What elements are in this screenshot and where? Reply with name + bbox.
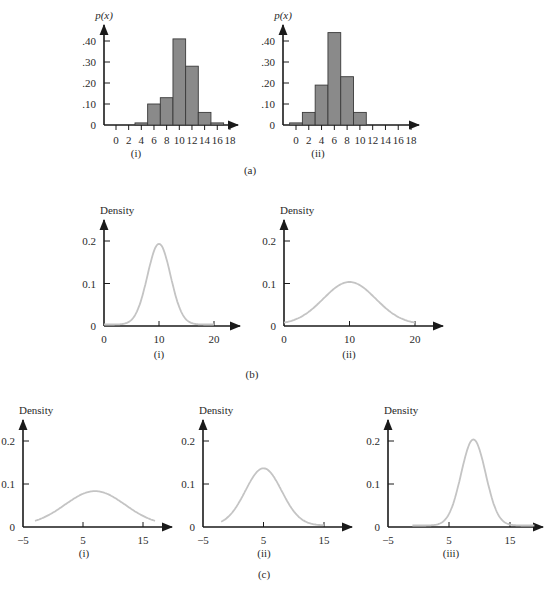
x-tick-label: 6: [332, 134, 338, 146]
x-tick-label: 15: [319, 534, 331, 546]
y-axis-label: p(x): [94, 9, 113, 22]
x-tick-label: 8: [344, 134, 350, 146]
y-tick-label: 0.2: [181, 435, 195, 447]
x-tick-label: −5: [197, 534, 209, 546]
histogram-bar: [186, 66, 199, 125]
y-tick-label: 0: [375, 521, 381, 533]
figure-canvas: p(x).40.30.20.100024681012141618(i)p(x).…: [0, 0, 553, 596]
histogram-bar: [302, 112, 315, 125]
x-tick-label: 10: [154, 333, 166, 345]
x-tick-label: 12: [186, 134, 197, 146]
x-tick-label: 18: [224, 134, 236, 146]
y-tick-label: 0.2: [366, 435, 380, 447]
y-tick-label: .40: [82, 35, 96, 47]
x-tick-label: 15: [138, 534, 150, 546]
y-tick-label: .30: [82, 56, 96, 68]
chart-sublabel: (ii): [257, 547, 271, 560]
y-tick-label: .40: [261, 35, 275, 47]
x-tick-label: 16: [212, 134, 224, 146]
y-tick-label: 0.1: [262, 278, 276, 290]
x-tick-label: 0: [101, 333, 107, 345]
histogram-bar: [354, 112, 367, 125]
histogram-bar: [135, 123, 148, 125]
histogram-bar: [315, 85, 328, 125]
x-tick-label: 5: [446, 534, 452, 546]
x-tick-label: 2: [306, 134, 312, 146]
y-tick-label: 0.1: [181, 478, 195, 490]
density-curve: [35, 491, 155, 521]
chart-sublabel: (iii): [443, 547, 460, 560]
x-tick-label: 4: [139, 134, 145, 146]
chart-b-ii: Density0.20.1001020(ii): [262, 204, 443, 361]
x-tick-label: 10: [344, 333, 356, 345]
histogram-bar: [290, 123, 303, 125]
density-curve: [412, 440, 534, 526]
x-tick-label: 0: [281, 333, 287, 345]
x-tick-label: 5: [80, 534, 86, 546]
panel-label-a: (a): [244, 164, 257, 177]
y-axis-label: Density: [19, 404, 54, 416]
chart-sublabel: (i): [79, 547, 90, 560]
y-tick-label: .30: [261, 56, 275, 68]
x-tick-label: 16: [393, 134, 405, 146]
y-tick-label: 0: [91, 320, 97, 332]
x-tick-label: 20: [410, 333, 422, 345]
panel-label-b: (b): [246, 368, 259, 381]
histogram-bar: [198, 112, 211, 125]
y-tick-label: 0.1: [1, 478, 15, 490]
y-axis-label: Density: [280, 204, 315, 216]
histogram-bar: [341, 77, 354, 125]
x-tick-label: −5: [17, 534, 29, 546]
y-tick-label: 0.2: [1, 435, 15, 447]
y-tick-label: 0: [10, 521, 16, 533]
density-curve: [104, 244, 214, 325]
chart-a-ii: p(x).40.30.20.100024681012141618(ii): [261, 9, 419, 160]
chart-sublabel: (ii): [311, 147, 325, 160]
x-tick-label: 18: [406, 134, 418, 146]
x-tick-label: 15: [505, 534, 517, 546]
x-tick-label: 0: [113, 134, 119, 146]
x-tick-label: 12: [367, 134, 378, 146]
x-tick-label: 2: [126, 134, 132, 146]
density-curve: [221, 468, 324, 525]
y-tick-label: 0: [91, 119, 97, 131]
x-tick-label: 5: [261, 534, 267, 546]
histogram-bar: [328, 33, 341, 125]
y-axis-label: Density: [100, 204, 135, 216]
histogram-bar: [173, 39, 186, 125]
x-tick-label: −5: [382, 534, 394, 546]
y-tick-label: .10: [82, 98, 96, 110]
y-tick-label: .10: [261, 98, 275, 110]
y-tick-label: 0: [271, 320, 277, 332]
chart-sublabel: (i): [131, 147, 142, 160]
y-tick-label: 0.2: [82, 235, 96, 247]
histogram-bar: [211, 123, 224, 125]
chart-c-iii: Density0.20.10−5515(iii): [366, 404, 543, 560]
histogram-bar: [148, 104, 161, 125]
y-tick-label: 0.1: [366, 478, 380, 490]
x-tick-label: 10: [174, 134, 186, 146]
chart-sublabel: (i): [154, 348, 165, 361]
y-tick-label: 0: [190, 521, 196, 533]
x-tick-label: 20: [209, 333, 221, 345]
y-tick-label: 0: [270, 119, 276, 131]
x-tick-label: 10: [354, 134, 366, 146]
y-axis-label: p(x): [273, 9, 292, 22]
x-tick-label: 14: [199, 134, 211, 146]
y-tick-label: 0.2: [262, 235, 276, 247]
x-tick-label: 8: [164, 134, 170, 146]
histogram-bar: [160, 98, 173, 125]
y-tick-label: 0.1: [82, 278, 96, 290]
y-axis-label: Density: [384, 404, 419, 416]
x-tick-label: 4: [319, 134, 325, 146]
chart-c-ii: Density0.20.10−5515(ii): [181, 404, 352, 560]
chart-a-i: p(x).40.30.20.100024681012141618(i): [82, 9, 238, 160]
x-tick-label: 6: [151, 134, 157, 146]
chart-sublabel: (ii): [342, 348, 356, 361]
x-tick-label: 0: [293, 134, 299, 146]
panel-label-c: (c): [258, 568, 271, 581]
y-tick-label: .20: [261, 77, 275, 89]
y-tick-label: .20: [82, 77, 96, 89]
chart-c-i: Density0.20.10−5515(i): [1, 404, 172, 560]
y-axis-label: Density: [199, 404, 234, 416]
